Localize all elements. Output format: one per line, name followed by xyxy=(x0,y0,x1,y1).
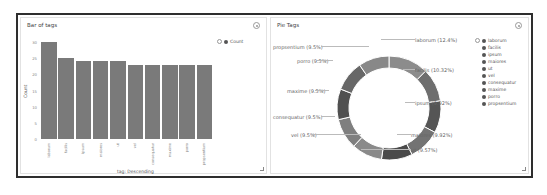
leader-line xyxy=(381,39,415,40)
x-tick: laborum xyxy=(47,143,51,158)
legend-toggle-icon[interactable] xyxy=(217,39,222,44)
pie-slice-ut[interactable] xyxy=(381,144,412,160)
y-tick: 15 xyxy=(27,89,37,94)
legend-item-ut[interactable]: ut xyxy=(475,65,516,72)
x-axis-label: tag: Descending xyxy=(117,169,154,174)
bar[interactable] xyxy=(58,58,74,139)
legend-dot-icon xyxy=(482,60,486,64)
x-tick: maiores xyxy=(99,143,103,157)
leader-line xyxy=(315,90,329,91)
legend-label: facilis xyxy=(488,45,501,50)
legend-item-maxime[interactable]: maxime xyxy=(475,86,516,93)
legend-label: ut xyxy=(488,66,493,71)
pie-label-ut: ut (9.57%) xyxy=(411,147,438,153)
legend-dot-icon xyxy=(482,39,486,43)
legend-dot-icon xyxy=(482,74,486,78)
pie-label-propsentium: propsentium (9.5%) xyxy=(273,44,323,50)
legend-dot-icon xyxy=(482,102,486,106)
bar[interactable] xyxy=(93,61,109,139)
resize-handle[interactable] xyxy=(260,167,264,171)
y-tick: 10 xyxy=(27,105,37,110)
legend-item-vel[interactable]: vel xyxy=(475,72,516,79)
pie-label-consequatur: consequatur (9.5%) xyxy=(273,114,322,120)
x-tick: propsentium xyxy=(202,143,206,165)
bar[interactable] xyxy=(179,65,195,139)
gear-icon[interactable] xyxy=(515,22,522,29)
legend-dot-icon xyxy=(482,81,486,85)
y-tick: 5 xyxy=(27,121,37,126)
x-tick: facilis xyxy=(64,143,68,153)
pie-chart-panel: Pie Tags laborum (12.4%)facilis (10.32%)… xyxy=(270,17,529,174)
legend-label: laborum xyxy=(488,38,507,43)
legend-label: maxime xyxy=(488,87,506,92)
x-tick: ipsum xyxy=(81,143,85,154)
pie-slice-facilis[interactable] xyxy=(417,71,440,102)
dashboard-frame: Bar of tags Count Count 302520151050 lab… xyxy=(16,13,533,178)
x-tick: ut xyxy=(116,143,120,147)
legend-label: porro xyxy=(488,94,500,99)
leader-line xyxy=(317,60,333,61)
leader-line xyxy=(397,134,411,135)
y-tick: 30 xyxy=(27,40,37,45)
legend-item-maiores[interactable]: maiores xyxy=(475,58,516,65)
legend-dot-icon xyxy=(482,46,486,50)
y-tick: 20 xyxy=(27,72,37,77)
legend-dot-icon xyxy=(482,67,486,71)
pie-legend: laborumfacilisipsummaioresutvelconsequat… xyxy=(475,37,516,107)
pie-label-vel: vel (9.5%) xyxy=(291,132,317,138)
legend-label[interactable]: Count xyxy=(230,39,243,44)
panel-title: Pie Tags xyxy=(277,22,299,28)
legend-item-laborum[interactable]: laborum xyxy=(475,37,516,44)
legend-toggle-icon[interactable] xyxy=(475,38,480,43)
resize-handle[interactable] xyxy=(522,167,526,171)
legend-item-consequatur[interactable]: consequatur xyxy=(475,79,516,86)
x-tick: vel xyxy=(133,143,137,148)
pie-label-facilis: facilis (10.32%) xyxy=(415,67,454,73)
pie-label-ipsum: ipsum (9.92%) xyxy=(415,100,452,106)
x-tick: porro xyxy=(185,143,189,152)
pie-slice-propsentium[interactable] xyxy=(360,56,389,75)
legend-label: consequatur xyxy=(488,80,516,85)
bar[interactable] xyxy=(197,65,213,139)
y-tick: 0 xyxy=(27,137,37,142)
legend-dot-icon xyxy=(482,53,486,57)
leader-line xyxy=(361,149,411,150)
panel-title: Bar of tags xyxy=(27,22,57,28)
pie-label-maiores: maiores (9.92%) xyxy=(411,132,452,138)
bar[interactable] xyxy=(76,61,92,139)
pie-label-porro: porro (9.5%) xyxy=(297,58,328,64)
pie-slice-consequatur[interactable] xyxy=(338,117,362,146)
leader-line xyxy=(403,69,415,70)
legend-label: maiores xyxy=(488,59,506,64)
legend-item-propsentium[interactable]: propsentium xyxy=(475,100,516,107)
pie-label-laborum: laborum (12.4%) xyxy=(415,37,457,43)
legend-dot-icon xyxy=(482,95,486,99)
y-tick: 25 xyxy=(27,56,37,61)
legend-label: ipsum xyxy=(488,52,502,57)
bar[interactable] xyxy=(128,65,144,139)
bar-legend: Count xyxy=(217,38,243,45)
bar[interactable] xyxy=(145,65,161,139)
legend-label: propsentium xyxy=(488,101,516,106)
legend-item-porro[interactable]: porro xyxy=(475,93,516,100)
bar-chart-panel: Bar of tags Count Count 302520151050 lab… xyxy=(20,17,267,174)
leader-line xyxy=(311,134,361,135)
x-tick: consequatur xyxy=(151,143,155,165)
bar[interactable] xyxy=(110,61,126,139)
gear-icon[interactable] xyxy=(253,22,260,29)
legend-item-facilis[interactable]: facilis xyxy=(475,44,516,51)
leader-line xyxy=(405,102,415,103)
bar[interactable] xyxy=(162,65,178,139)
legend-label: vel xyxy=(488,73,495,78)
legend-dot-icon xyxy=(482,88,486,92)
pie-label-maxime: maxime (9.5%) xyxy=(287,88,325,94)
legend-dot-icon xyxy=(224,40,228,44)
x-tick: maxime xyxy=(168,143,172,157)
leader-line xyxy=(321,116,335,117)
bar[interactable] xyxy=(41,42,57,139)
leader-line xyxy=(321,46,369,47)
legend-item-ipsum[interactable]: ipsum xyxy=(475,51,516,58)
pie-slice-maxime[interactable] xyxy=(337,89,352,120)
